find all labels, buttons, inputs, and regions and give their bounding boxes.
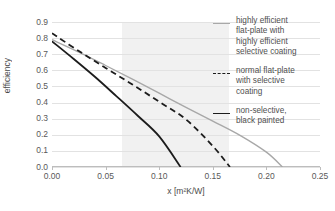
y-tick-label: 0.8: [14, 34, 48, 43]
legend-item-label: highly efficientflat-plate withhighly ef…: [236, 16, 297, 57]
legend-line-icon: [213, 109, 230, 118]
legend-line-icon: [213, 69, 230, 78]
x-axis-title: x [m²K/W]: [52, 186, 320, 196]
x-tick-label: 0.15: [193, 172, 233, 181]
y-tick-label: 0.4: [14, 98, 48, 107]
y-tick-label: 0.3: [14, 114, 48, 123]
x-tick-label: 0.20: [246, 172, 286, 181]
series-line-2: [52, 33, 230, 167]
chart-legend: highly efficientflat-plate withhighly ef…: [213, 16, 335, 136]
y-tick-label: 0.5: [14, 82, 48, 91]
legend-item[interactable]: highly efficientflat-plate withhighly ef…: [213, 16, 335, 57]
x-tick-mark: [106, 167, 107, 170]
chart-figure: efficiency 0.00.10.20.30.40.50.60.70.80.…: [0, 0, 335, 211]
legend-item-label: normal flat-platewith selectivecoating: [236, 66, 295, 97]
x-tick-label: 0.10: [139, 172, 179, 181]
legend-item[interactable]: normal flat-platewith selectivecoating: [213, 66, 335, 97]
y-tick-label: 0.6: [14, 66, 48, 75]
y-tick-label: 0.0: [14, 163, 48, 172]
legend-item[interactable]: non-selective,black painted: [213, 106, 335, 127]
y-tick-label: 0.9: [14, 18, 48, 27]
y-tick-label: 0.7: [14, 50, 48, 59]
x-tick-mark: [159, 167, 160, 170]
x-tick-mark: [266, 167, 267, 170]
x-tick-mark: [320, 167, 321, 170]
x-tick-label: 0.00: [32, 172, 72, 181]
x-tick-label: 0.25: [300, 172, 335, 181]
legend-item-label: non-selective,black painted: [236, 106, 287, 127]
x-tick-mark: [52, 167, 53, 170]
x-tick-label: 0.05: [86, 172, 126, 181]
y-tick-label: 0.1: [14, 146, 48, 155]
y-tick-label: 0.2: [14, 130, 48, 139]
x-tick-mark: [213, 167, 214, 170]
gridline: [52, 167, 320, 168]
legend-line-icon: [213, 19, 230, 28]
